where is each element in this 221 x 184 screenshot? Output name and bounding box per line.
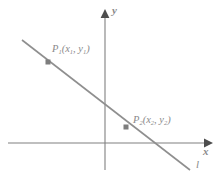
point-label-p1: P1(x1, y1) xyxy=(52,44,90,55)
coordinate-plane-figure: P1(x1, y1) P2(x2, y2) x y l xyxy=(0,0,221,184)
point-label-p2-x-subscript: 2 xyxy=(151,119,154,126)
point-label-p2-subscript: 2 xyxy=(139,119,142,126)
point-label-p1-subscript: 1 xyxy=(58,48,61,55)
point-marker-p1 xyxy=(46,60,51,65)
line-label-l: l xyxy=(196,159,199,170)
point-marker-p2 xyxy=(124,125,129,130)
point-label-p2: P2(x2, y2) xyxy=(133,115,171,126)
x-axis xyxy=(8,139,213,148)
point-label-p2-y-subscript: 2 xyxy=(164,119,167,126)
x-axis-label: x xyxy=(203,146,209,157)
y-axis-label: y xyxy=(112,5,117,16)
y-axis-arrowhead-icon xyxy=(101,9,110,18)
point-label-p2-close-paren: ) xyxy=(167,114,171,125)
point-label-p1-close-paren: ) xyxy=(86,43,90,54)
figure-canvas xyxy=(0,0,221,184)
point-label-p1-x-subscript: 1 xyxy=(70,48,73,55)
point-label-p1-y-subscript: 1 xyxy=(83,48,86,55)
y-axis xyxy=(101,9,110,170)
